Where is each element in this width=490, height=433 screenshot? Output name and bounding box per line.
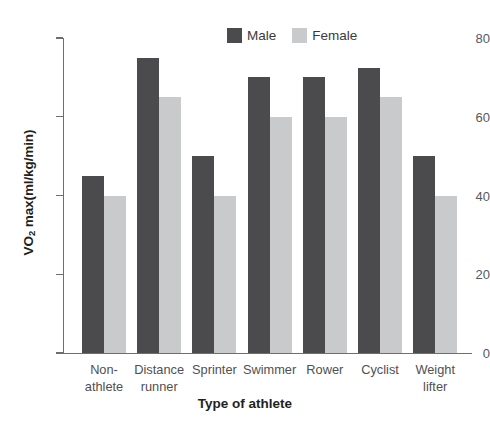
x-axis-label-line1: Weight xyxy=(415,362,455,377)
legend-swatch-male-icon xyxy=(227,28,242,43)
legend-swatch-female-icon xyxy=(292,28,307,43)
bar-female xyxy=(159,97,181,353)
bar-male xyxy=(303,77,325,353)
y-tick-mark xyxy=(56,352,63,353)
y-axis-title: VO2 max(ml/kg/min) xyxy=(21,93,36,293)
legend-item-female: Female xyxy=(292,28,357,43)
legend: Male Female xyxy=(227,28,357,43)
bar-female xyxy=(104,196,126,354)
bar-male xyxy=(358,68,380,353)
x-axis-label: Weightlifter xyxy=(390,361,480,395)
y-tick-mark xyxy=(56,195,63,196)
y-tick-mark xyxy=(56,37,63,38)
bar-group xyxy=(248,38,292,353)
vo2-max-bar-chart: VO2 max(ml/kg/min) 020406080 Non-athlete… xyxy=(0,0,490,433)
bar-male xyxy=(413,156,435,353)
bar-male xyxy=(82,176,104,353)
bar-group xyxy=(413,38,457,353)
legend-label-female: Female xyxy=(312,28,357,43)
bar-male xyxy=(137,58,159,353)
bar-male xyxy=(248,77,270,353)
bar-male xyxy=(192,156,214,353)
plot-area xyxy=(63,38,472,353)
x-axis-label-line2: lifter xyxy=(390,378,480,395)
bar-group xyxy=(303,38,347,353)
bar-group xyxy=(137,38,181,353)
bar-group xyxy=(82,38,126,353)
bar-female xyxy=(380,97,402,353)
bar-female xyxy=(325,117,347,353)
bar-group xyxy=(192,38,236,353)
y-axis-title-suffix: max(ml/kg/min) xyxy=(21,130,36,231)
bar-female xyxy=(270,117,292,353)
y-tick-mark xyxy=(56,116,63,117)
bar-female xyxy=(435,196,457,354)
bar-group xyxy=(358,38,402,353)
x-axis-title: Type of athlete xyxy=(0,396,490,411)
y-tick-mark xyxy=(56,274,63,275)
y-axis-title-subscript: 2 xyxy=(26,231,37,236)
legend-item-male: Male xyxy=(227,28,276,43)
bar-female xyxy=(214,196,236,354)
x-axis-label-line2: runner xyxy=(114,378,204,395)
legend-label-male: Male xyxy=(247,28,276,43)
y-axis-title-prefix: VO xyxy=(21,236,36,255)
